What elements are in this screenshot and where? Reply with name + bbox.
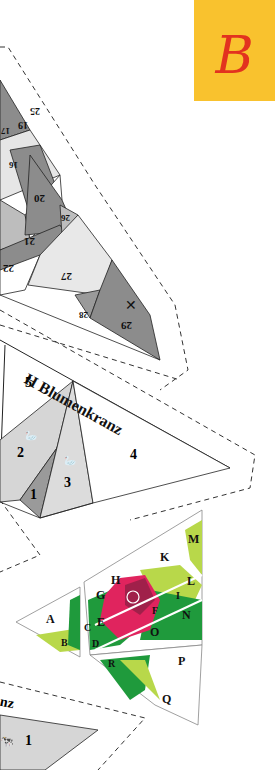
svg-text:21: 21 [24, 236, 35, 248]
segment-4: 4 [130, 447, 137, 463]
svg-text:29: 29 [121, 320, 133, 332]
segment-3: 3 [64, 475, 71, 491]
svg-text:17: 17 [1, 126, 11, 136]
label-f: F [152, 605, 158, 616]
svg-text:✕: ✕ [125, 298, 137, 313]
svg-text:16: 16 [9, 160, 19, 170]
label-c: C [84, 622, 91, 633]
bottom-segment-1: 1 [25, 733, 32, 749]
label-o: O [150, 625, 159, 640]
svg-text:26: 26 [61, 213, 71, 223]
label-k: K [160, 550, 169, 565]
section-letter: B [215, 29, 253, 81]
label-e: E [97, 615, 105, 630]
label-h: H [111, 573, 120, 588]
swan-icon: 🦢 [25, 430, 37, 441]
label-r: R [108, 658, 115, 669]
segment-5: 5 [25, 375, 32, 391]
svg-text:25: 25 [30, 106, 40, 117]
label-m: M [188, 532, 199, 547]
label-g: G [96, 588, 105, 603]
label-p: P [178, 654, 185, 669]
svg-text:20: 20 [34, 193, 46, 205]
swan-icon: 🦢 [64, 455, 76, 466]
blumenkranz-pattern [0, 310, 255, 572]
svg-text:28: 28 [79, 310, 89, 320]
label-n: N [182, 608, 191, 623]
label-l: L [187, 574, 195, 589]
svg-text:22: 22 [3, 263, 15, 275]
section-badge: B [194, 0, 275, 101]
pattern-page: 25 19 17 16 20 21 22 26 27 28 29 ✕ [0, 0, 275, 770]
svg-text:19: 19 [18, 120, 28, 131]
label-b: B [61, 637, 68, 648]
svg-text:27: 27 [61, 271, 73, 283]
label-d: D [92, 638, 99, 649]
bottom-pattern [0, 682, 145, 770]
cow-icon: 🐄 [0, 735, 14, 748]
label-a: A [46, 612, 55, 627]
label-i: I [176, 590, 180, 601]
segment-2: 2 [17, 445, 24, 461]
label-q: Q [162, 692, 171, 707]
segment-1: 1 [30, 487, 37, 503]
swirl-pattern: 25 19 17 16 20 21 22 26 27 28 29 ✕ [0, 47, 188, 390]
